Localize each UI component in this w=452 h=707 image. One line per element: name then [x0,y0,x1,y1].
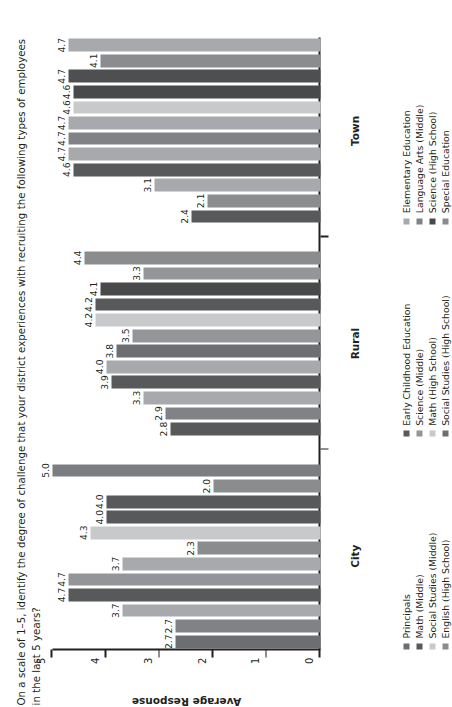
bar-value-label: 3.7 [109,556,120,571]
bar[interactable]: 4.7 [68,147,320,160]
legend-item[interactable]: Special Education [439,37,451,224]
y-axis-tick-label: 1 [250,657,261,679]
bar[interactable]: 3.1 [154,178,320,191]
bar-cell: 2.1 [52,193,320,209]
legend-item[interactable]: Math (High School) [426,250,438,437]
y-axis-tick-label: 2 [196,657,207,679]
legend-item[interactable]: Science (High School) [426,37,438,224]
bar-cell: 2.7 [52,618,320,634]
bar[interactable]: 4.2 [95,313,320,326]
bar-value-label: 3.9 [98,375,109,390]
legend-item[interactable]: Elementary Education [400,37,412,224]
bar-value-label: 2.7 [162,634,173,649]
bar-cell: 5.0 [52,462,320,478]
legend-swatch-icon [429,430,435,436]
bar-cell: 4.2 [52,312,320,328]
group-separator-tick [320,235,328,237]
bar[interactable]: 4.4 [84,251,320,264]
bar[interactable]: 3.7 [122,604,320,617]
legend-item[interactable]: Principals [400,462,412,649]
bar-value-label: 4.7 [55,37,66,52]
bar-cell: 4.0 [52,359,320,375]
legend-swatch-icon [416,218,422,224]
bar[interactable]: 4.1 [100,282,320,295]
bar[interactable]: 4.7 [68,588,320,601]
legend-label: Elementary Education [400,110,412,213]
bar[interactable]: 4.0 [106,510,320,523]
bar[interactable]: 4.7 [68,116,320,129]
bar-value-label: 4.7 [55,587,66,602]
bar[interactable]: 3.5 [132,329,320,342]
bar[interactable]: 4.1 [100,54,320,67]
bar-value-label: 4.7 [55,115,66,130]
bar-value-label: 3.1 [141,177,152,192]
bar[interactable]: 3.3 [143,391,320,404]
bar[interactable]: 4.7 [68,132,320,145]
bar[interactable]: 2.8 [170,422,320,435]
bar-cell: 2.0 [52,478,320,494]
bars: 2.82.93.33.94.03.83.54.24.24.13.34.4 [52,250,320,437]
y-axis-tick-label: 5 [36,657,47,679]
bar-cell: 4.0 [52,509,320,525]
chart-title-line1: On a scale of 1–5, identify the degree o… [15,38,26,705]
bar-value-label: 4.3 [77,525,88,540]
bars: 2.72.73.74.74.73.72.34.34.04.02.05.0 [52,462,320,649]
bar[interactable]: 2.3 [197,541,320,554]
bar-value-label: 2.9 [152,406,163,421]
bar-value-label: 2.0 [200,478,211,493]
bar[interactable]: 4.6 [73,85,320,98]
legend-label: Social Studies (High School) [439,295,451,425]
bar-cell: 4.3 [52,525,320,541]
bar[interactable]: 2.7 [175,635,320,648]
bar[interactable]: 4.0 [106,360,320,373]
bar-value-label: 4.7 [55,131,66,146]
bar[interactable]: 4.0 [106,495,320,508]
legend-swatch-icon [442,643,448,649]
legend-item[interactable]: Early Childhood Education [400,250,412,437]
y-axis-tick [50,649,52,657]
bar-cell: 2.3 [52,540,320,556]
bar-cell: 3.7 [52,556,320,572]
bar[interactable]: 3.7 [122,557,320,570]
bar[interactable]: 2.4 [191,210,320,223]
bar[interactable]: 3.9 [111,376,320,389]
bar-value-label: 4.6 [60,100,71,115]
bar[interactable]: 4.7 [68,69,320,82]
legend-swatch-icon [416,430,422,436]
bar[interactable]: 2.0 [213,479,320,492]
bar-value-label: 4.2 [82,312,93,327]
bar[interactable]: 5.0 [52,464,320,477]
bar-cell: 3.3 [52,390,320,406]
legend-item[interactable]: Language Arts (Middle) [413,37,425,224]
bar-cell: 4.7 [52,587,320,603]
y-axis-tick-label: 4 [89,657,100,679]
bar-value-label: 4.1 [87,281,98,296]
legend-label: Science (Middle) [413,348,425,425]
group-label-rural: Rural [348,250,360,437]
bar[interactable]: 4.3 [90,526,320,539]
bar[interactable]: 2.1 [207,194,320,207]
bar[interactable]: 3.3 [143,267,320,280]
legend-item[interactable]: English (High School) [439,462,451,649]
y-axis-tick [265,649,267,657]
bar-cell: 3.5 [52,327,320,343]
bar-value-label: 4.0 [93,509,104,524]
bar[interactable]: 4.2 [95,298,320,311]
legend-item[interactable]: Social Studies (Middle) [426,462,438,649]
bar-value-label: 4.0 [93,359,104,374]
bar-cell: 4.7 [52,115,320,131]
bar[interactable]: 2.9 [165,407,320,420]
legend-label: Language Arts (Middle) [413,104,425,212]
plot-area: Average Response 012345 2.72.73.74.74.73… [52,37,320,649]
bar[interactable]: 4.6 [73,163,320,176]
bar[interactable]: 3.8 [116,344,320,357]
bar[interactable]: 4.6 [73,101,320,114]
bar[interactable]: 4.7 [68,38,320,51]
bar[interactable]: 2.7 [175,619,320,632]
legend-item[interactable]: Social Studies (High School) [439,250,451,437]
legend-item[interactable]: Science (Middle) [413,250,425,437]
legend-item[interactable]: Math (Middle) [413,462,425,649]
bar[interactable]: 4.7 [68,573,320,586]
bar-cell: 3.1 [52,177,320,193]
